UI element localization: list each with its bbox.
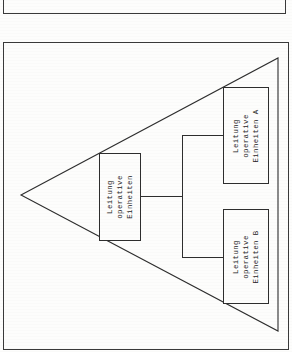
node-unit-a-label: Leitung operative Einheiten A xyxy=(231,109,261,162)
node-root-label-line-2: operative xyxy=(115,175,125,219)
node-unit-a-label-line-3: Einheiten A xyxy=(251,109,261,162)
node-unit-b-label: Leitung operative Einheiten B xyxy=(231,230,261,283)
connector-bus-to-unit-a xyxy=(182,135,224,136)
node-root-label-line-3: Einheiten xyxy=(125,175,135,219)
figure-frame: Leitung operative Einheiten Leitung oper… xyxy=(3,42,289,350)
node-leitung-operative-einheiten-a[interactable]: Leitung operative Einheiten A xyxy=(223,87,269,184)
connector-bus-to-unit-b xyxy=(182,257,224,258)
node-root-label-line-1: Leitung xyxy=(105,175,115,219)
node-unit-b-label-line-2: operative xyxy=(241,230,251,283)
connector-root-to-bus xyxy=(140,196,183,197)
scanned-page: Leitung operative Einheiten Leitung oper… xyxy=(0,0,292,352)
node-unit-a-label-line-2: operative xyxy=(241,109,251,162)
node-unit-b-label-line-1: Leitung xyxy=(231,230,241,283)
node-unit-a-label-line-1: Leitung xyxy=(231,109,241,162)
node-unit-b-label-line-3: Einheiten B xyxy=(251,230,261,283)
node-leitung-operative-einheiten-b[interactable]: Leitung operative Einheiten B xyxy=(223,209,269,304)
figure-canvas: Leitung operative Einheiten Leitung oper… xyxy=(4,43,288,349)
node-root-label: Leitung operative Einheiten xyxy=(105,175,135,219)
node-leitung-operative-einheiten[interactable]: Leitung operative Einheiten xyxy=(99,153,141,241)
connector-vertical-bus xyxy=(182,135,183,258)
previous-figure-frame xyxy=(3,0,286,14)
